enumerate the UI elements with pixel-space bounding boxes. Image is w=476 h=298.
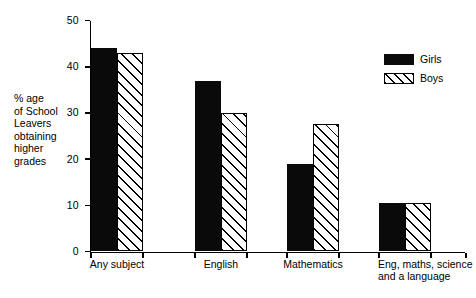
- y-axis-tick: [85, 66, 90, 68]
- y-axis-tick-label: 20: [57, 154, 79, 165]
- y-axis-tick-label: 10: [57, 200, 79, 211]
- legend: Girls Boys: [384, 52, 443, 90]
- y-axis-tick: [85, 251, 90, 253]
- legend-item-girls: Girls: [384, 52, 443, 67]
- bar-girls-0: [91, 48, 117, 251]
- legend-swatch-girls-icon: [384, 54, 414, 65]
- y-axis-tick-label: 30: [57, 107, 79, 118]
- bar-boys-3: [405, 203, 431, 252]
- legend-label-girls: Girls: [420, 54, 442, 65]
- y-axis-tick: [85, 158, 90, 160]
- y-axis-tick-label: 50: [57, 15, 79, 26]
- y-axis-tick: [85, 205, 90, 207]
- bar-chart: % age of School Leavers obtaining higher…: [0, 0, 476, 298]
- y-axis-tick: [85, 112, 90, 114]
- bar-boys-0: [117, 53, 143, 252]
- legend-swatch-boys-icon: [384, 73, 414, 84]
- legend-label-boys: Boys: [420, 73, 443, 84]
- bar-girls-1: [195, 81, 221, 252]
- x-axis-category-label: Any subject: [71, 258, 163, 270]
- bar-girls-3: [379, 203, 405, 252]
- x-axis-category-label: Mathematics: [264, 258, 362, 270]
- y-axis-tick-label: 0: [57, 246, 79, 257]
- legend-item-boys: Boys: [384, 71, 443, 86]
- x-axis-line: [90, 252, 466, 254]
- bar-boys-2: [313, 124, 339, 251]
- x-axis-category-label: Eng, maths, science and a language: [378, 258, 476, 283]
- y-axis-tick-label: 40: [57, 61, 79, 72]
- y-axis-tick: [85, 20, 90, 22]
- x-axis-category-label: English: [175, 258, 267, 270]
- bar-boys-1: [221, 113, 247, 252]
- bar-girls-2: [287, 164, 313, 252]
